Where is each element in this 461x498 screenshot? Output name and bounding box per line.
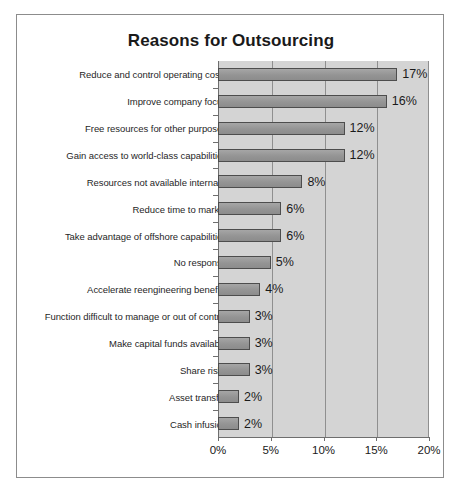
bar-row: 3% [17,308,443,324]
y-axis-tick [213,410,218,411]
bar-row: 6% [17,201,443,217]
bar-row: 6% [17,228,443,244]
bar-row: 8% [17,174,443,190]
x-axis-tick [218,437,219,441]
bar-value-label: 4% [265,282,283,296]
x-axis-tick [429,437,430,441]
bar-row: 4% [17,281,443,297]
bar [218,68,397,81]
bar [218,363,250,376]
bar-value-label: 5% [276,255,294,269]
bar [218,122,345,135]
y-axis-tick [213,356,218,357]
y-axis-tick [213,88,218,89]
bar [218,149,345,162]
bar-value-label: 6% [286,202,304,216]
bar-value-label: 17% [402,67,427,81]
bar-value-label: 3% [255,336,273,350]
bar-value-label: 3% [255,309,273,323]
bar [218,175,302,188]
bar-row: 17% [17,66,443,82]
x-axis-tick [271,437,272,441]
x-axis-tick-label: 10% [312,444,335,456]
bar-value-label: 3% [255,363,273,377]
bar-value-label: 8% [307,175,325,189]
y-axis-tick [213,303,218,304]
bar-value-label: 16% [392,94,417,108]
y-axis-tick [213,168,218,169]
y-axis-tick [213,330,218,331]
bar [218,229,281,242]
bar-value-label: 6% [286,229,304,243]
x-axis-tick-label: 20% [417,444,440,456]
y-axis-tick [213,115,218,116]
bar [218,417,239,430]
bar [218,95,387,108]
bar-row: 12% [17,147,443,163]
x-axis-tick-label: 0% [210,444,227,456]
bar [218,256,271,269]
y-axis-tick [213,383,218,384]
bar-value-label: 12% [350,148,375,162]
bar-row: 3% [17,362,443,378]
bar-value-label: 2% [244,417,262,431]
y-axis-tick [213,276,218,277]
y-axis-tick [213,195,218,196]
x-axis-tick [324,437,325,441]
chart-frame: Reasons for Outsourcing Reduce and contr… [16,14,444,478]
bar [218,390,239,403]
y-axis-tick [213,249,218,250]
x-axis-tick-label: 15% [365,444,388,456]
bar [218,310,250,323]
bar-row: 16% [17,93,443,109]
y-axis-tick [213,222,218,223]
bar-row: 2% [17,416,443,432]
bar [218,283,260,296]
x-axis-tick [376,437,377,441]
bar-value-label: 12% [350,121,375,135]
bar-row: 2% [17,389,443,405]
bar [218,337,250,350]
y-axis-tick [213,142,218,143]
bar-row: 5% [17,254,443,270]
bar-value-label: 2% [244,390,262,404]
x-axis-tick-label: 5% [262,444,279,456]
bar-rows: Reduce and control operating costs17%Imp… [17,15,443,477]
bar-row: 12% [17,120,443,136]
bar [218,202,281,215]
bar-row: 3% [17,335,443,351]
